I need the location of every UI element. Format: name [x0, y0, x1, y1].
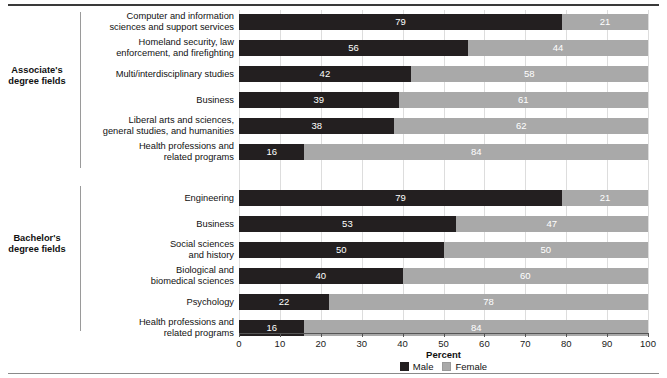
- bar-value-female: 21: [600, 193, 611, 203]
- bar-value-female: 62: [516, 121, 527, 131]
- bar-row: 7921: [239, 14, 648, 30]
- group-bracket-bachelors: [80, 186, 81, 331]
- bar-segment-male: 50: [239, 242, 444, 258]
- x-axis-tick: [648, 333, 649, 337]
- category-label: Engineering: [84, 193, 234, 204]
- bar-segment-female: 61: [399, 92, 648, 108]
- x-axis-tick-label: 50: [438, 338, 449, 349]
- category-label-line: Psychology: [84, 297, 234, 308]
- bar-segment-male: 42: [239, 66, 411, 82]
- bar-value-male: 56: [348, 43, 359, 53]
- gridline: [648, 10, 649, 333]
- bar-value-male: 42: [320, 69, 331, 79]
- category-label: Social sciencesand history: [84, 239, 234, 260]
- bar-segment-male: 38: [239, 118, 394, 134]
- group-label-bachelors: Bachelor's degree fields: [0, 233, 74, 255]
- bar-segment-female: 47: [456, 216, 648, 232]
- plot-area: 7921564442583961386216847921534750504060…: [239, 10, 648, 333]
- category-label-line: related programs: [84, 328, 234, 339]
- x-axis-tick-label: 30: [356, 338, 367, 349]
- gridline: [321, 10, 322, 333]
- category-label-line: Liberal arts and sciences,: [84, 115, 234, 126]
- bar-value-female: 78: [483, 297, 494, 307]
- category-label: Biological andbiomedical sciences: [84, 265, 234, 286]
- category-label-line: Health professions and: [84, 317, 234, 328]
- stacked-bar-chart: Associate's degree fields Bachelor's deg…: [0, 0, 667, 378]
- bar-row: 5050: [239, 242, 648, 258]
- gridline: [607, 10, 608, 333]
- x-axis-tick-label: 90: [602, 338, 613, 349]
- category-label: Multi/interdisciplinary studies: [84, 69, 234, 80]
- category-label: Health professions andrelated programs: [84, 317, 234, 338]
- bar-value-female: 47: [547, 219, 558, 229]
- bar-value-male: 79: [395, 193, 406, 203]
- category-label-line: Business: [84, 95, 234, 106]
- bar-value-female: 21: [600, 17, 611, 27]
- legend-item-male: Male: [400, 361, 434, 372]
- group-label-associates-line2: degree fields: [0, 76, 74, 87]
- x-axis-tick: [280, 333, 281, 337]
- bar-value-male: 38: [311, 121, 322, 131]
- category-label-line: general studies, and humanities: [84, 126, 234, 137]
- gridline: [444, 10, 445, 333]
- category-label-line: Health professions and: [84, 141, 234, 152]
- bar-segment-male: 53: [239, 216, 456, 232]
- gridline: [239, 10, 240, 333]
- category-label: Health professions andrelated programs: [84, 141, 234, 162]
- group-label-bachelors-line2: degree fields: [0, 244, 74, 255]
- x-axis-tick-label: 10: [275, 338, 286, 349]
- bar-segment-male: 40: [239, 268, 403, 284]
- bar-segment-female: 58: [411, 66, 648, 82]
- bar-value-male: 79: [395, 17, 406, 27]
- category-label-line: enforcement, and firefighting: [84, 48, 234, 59]
- category-label-line: and history: [84, 250, 234, 261]
- bar-value-female: 84: [471, 147, 482, 157]
- bar-segment-female: 21: [562, 14, 648, 30]
- category-label-line: Biological and: [84, 265, 234, 276]
- x-axis-tick: [444, 333, 445, 337]
- group-label-associates: Associate's degree fields: [0, 65, 74, 87]
- category-label-line: Multi/interdisciplinary studies: [84, 69, 234, 80]
- bar-value-male: 50: [336, 245, 347, 255]
- bar-segment-male: 79: [239, 14, 562, 30]
- category-label: Liberal arts and sciences,general studie…: [84, 115, 234, 136]
- group-bracket-associates: [80, 12, 81, 168]
- x-axis-tick: [566, 333, 567, 337]
- bar-segment-female: 60: [403, 268, 648, 284]
- bar-row: 4060: [239, 268, 648, 284]
- category-label: Homeland security, lawenforcement, and f…: [84, 37, 234, 58]
- category-label-line: sciences and support services: [84, 22, 234, 33]
- group-label-bachelors-line1: Bachelor's: [0, 233, 74, 244]
- category-label-line: biomedical sciences: [84, 276, 234, 287]
- x-axis-tick: [321, 333, 322, 337]
- bar-value-female: 58: [524, 69, 535, 79]
- bar-value-female: 61: [518, 95, 529, 105]
- bar-row: 2278: [239, 294, 648, 310]
- gridline: [525, 10, 526, 333]
- gridline: [566, 10, 567, 333]
- gridline: [362, 10, 363, 333]
- bar-value-male: 22: [279, 297, 290, 307]
- bar-row: 4258: [239, 66, 648, 82]
- x-axis-tick-label: 70: [520, 338, 531, 349]
- bar-segment-male: 79: [239, 190, 562, 206]
- bar-segment-male: 39: [239, 92, 399, 108]
- x-axis-tick: [607, 333, 608, 337]
- bottom-divider-rule: [8, 373, 659, 374]
- category-label: Psychology: [84, 297, 234, 308]
- bar-row: 3961: [239, 92, 648, 108]
- x-axis-tick: [403, 333, 404, 337]
- legend-label-female: Female: [455, 361, 487, 372]
- bar-segment-female: 44: [468, 40, 648, 56]
- x-axis-tick-label: 100: [640, 338, 656, 349]
- legend-item-female: Female: [442, 361, 487, 372]
- x-axis-tick-label: 40: [397, 338, 408, 349]
- category-label: Computer and informationsciences and sup…: [84, 11, 234, 32]
- bar-value-male: 39: [313, 95, 324, 105]
- bar-value-male: 40: [316, 271, 327, 281]
- category-label-line: Engineering: [84, 193, 234, 204]
- x-axis-tick-label: 20: [316, 338, 327, 349]
- bar-segment-female: 84: [304, 144, 648, 160]
- bar-segment-female: 78: [329, 294, 648, 310]
- bar-row: 7921: [239, 190, 648, 206]
